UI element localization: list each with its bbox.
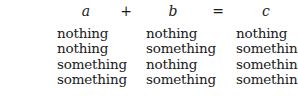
cell-c: something	[236, 72, 298, 87]
equals-operator: =	[208, 2, 228, 20]
cell-a: something	[57, 57, 127, 72]
cell-c: nothing	[236, 26, 287, 41]
variable-b: b	[163, 2, 183, 20]
table-row: nothing something something	[0, 41, 298, 56]
truth-table: nothing nothing nothing nothing somethin…	[0, 26, 298, 87]
cell-b: something	[146, 72, 216, 87]
cell-b: nothing	[146, 57, 197, 72]
cell-a: nothing	[57, 41, 108, 56]
cell-a: nothing	[57, 26, 108, 41]
variable-a: a	[76, 2, 96, 20]
variable-c: c	[256, 2, 276, 20]
table-row: something nothing something	[0, 57, 298, 72]
equation-header: a + b = c	[0, 2, 298, 20]
plus-operator: +	[116, 2, 136, 20]
table-row: nothing nothing nothing	[0, 26, 298, 41]
cell-a: something	[57, 72, 127, 87]
table-row: something something something	[0, 72, 298, 87]
cell-c: something	[236, 57, 298, 72]
cell-b: nothing	[146, 26, 197, 41]
cell-c: something	[236, 41, 298, 56]
cell-b: something	[146, 41, 216, 56]
